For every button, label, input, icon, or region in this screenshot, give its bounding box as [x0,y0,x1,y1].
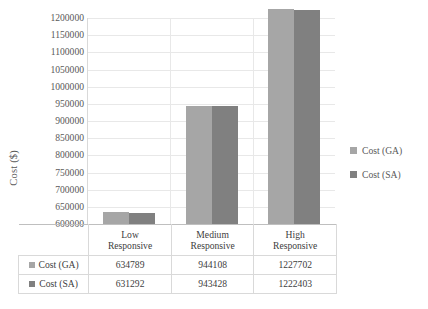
legend-label: Cost (SA) [362,169,401,180]
y-axis-tick-label: 1000000 [24,82,84,92]
table-series-label-cell: Cost (SA) [19,275,89,294]
column-header-line-2: Responsive [254,240,336,251]
plot-area [88,18,335,224]
y-axis-tick-label: 650000 [24,202,84,212]
bar-low-responsive-sa [129,213,155,224]
series-swatch-icon [29,262,35,268]
y-axis-tick-label: 700000 [24,185,84,195]
chart-data-table: LowResponsiveMediumResponsiveHighRespons… [18,224,337,294]
y-axis-tick-label: 950000 [24,99,84,109]
column-header-line-2: Responsive [89,240,171,251]
table-cell: 1222403 [254,275,337,294]
y-axis-tick-label: 1050000 [24,65,84,75]
category-separator [170,18,171,224]
column-header-line-2: Responsive [172,240,254,251]
y-axis-tick-label: 800000 [24,150,84,160]
y-axis-tick-label: 850000 [24,133,84,143]
column-header-line-1: High [254,229,336,240]
data-table-body: LowResponsiveMediumResponsiveHighRespons… [19,225,337,294]
table-header-row: LowResponsiveMediumResponsiveHighRespons… [19,225,337,256]
column-header-line-1: Medium [172,229,254,240]
table-column-header: LowResponsive [89,225,172,256]
column-header-line-1: Low [89,229,171,240]
table-cell: 944108 [171,256,254,275]
y-axis-tick-label: 1100000 [24,47,84,57]
table-column-header: HighResponsive [254,225,337,256]
table-corner-cell [19,225,89,256]
legend-swatch-icon [350,171,357,178]
table-cell: 1227702 [254,256,337,275]
table-cell: 634789 [89,256,172,275]
chart-legend: Cost (GA)Cost (SA) [350,138,428,186]
legend-swatch-icon [350,147,357,154]
bar-high-responsive-sa [294,10,320,224]
table-cell: 631292 [89,275,172,294]
legend-item[interactable]: Cost (GA) [350,138,428,162]
series-label: Cost (GA) [39,259,79,270]
series-label: Cost (SA) [39,278,78,289]
table-row: Cost (GA)6347899441081227702 [19,256,337,275]
bar-medium-responsive-ga [186,106,212,224]
y-axis-title: Cost ($) [8,150,19,186]
table-series-label-cell: Cost (GA) [19,256,89,275]
table-cell: 943428 [171,275,254,294]
series-swatch-icon [29,281,35,287]
table-column-header: MediumResponsive [171,225,254,256]
y-axis-tick-label: 1150000 [24,30,84,40]
bar-medium-responsive-sa [212,106,238,224]
category-separator [253,18,254,224]
y-axis-tick-label: 750000 [24,168,84,178]
y-axis-tick-label: 900000 [24,116,84,126]
bar-low-responsive-ga [103,212,129,224]
legend-label: Cost (GA) [362,145,402,156]
bar-high-responsive-ga [268,9,294,225]
y-axis-tick-label: 1200000 [24,13,84,23]
table-row: Cost (SA)6312929434281222403 [19,275,337,294]
legend-item[interactable]: Cost (SA) [350,162,428,186]
